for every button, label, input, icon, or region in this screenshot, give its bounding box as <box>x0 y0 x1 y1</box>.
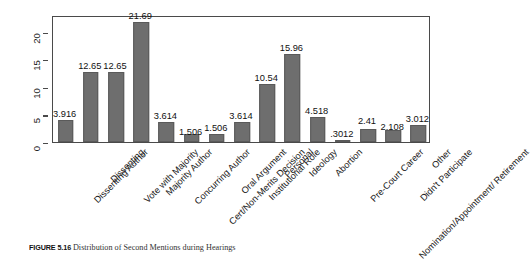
bar[interactable] <box>360 129 376 142</box>
bar-slot <box>78 15 103 142</box>
bar-value-label: 3.916 <box>53 109 76 119</box>
y-tick-mark <box>43 143 48 144</box>
bar-value-label: 2.41 <box>358 116 376 126</box>
y-tick: 15 <box>0 60 48 61</box>
bar-value-label: 1.506 <box>204 123 227 133</box>
y-tick-mark <box>43 115 48 116</box>
bar-value-label: 3.614 <box>229 111 252 121</box>
bar-value-label: 2.108 <box>381 122 404 132</box>
bar-value-label: .3012 <box>330 129 353 139</box>
y-tick-label: 10 <box>31 83 42 103</box>
bar[interactable] <box>234 122 250 142</box>
bar-value-label: 4.518 <box>305 106 328 116</box>
bar-value-label: 12.65 <box>78 61 101 71</box>
bar-slot <box>305 15 330 142</box>
bar[interactable] <box>209 134 225 142</box>
y-tick: 0 <box>0 143 48 144</box>
caption-number: FIGURE 5.16 <box>29 243 71 252</box>
y-tick-label: 0 <box>31 139 42 159</box>
bar-value-label: 3.614 <box>154 111 177 121</box>
bar-value-label: 1.506 <box>179 127 202 137</box>
bar-value-label: 10.54 <box>255 73 278 83</box>
bar-value-label: 12.65 <box>103 61 126 71</box>
bar-value-label: 15.96 <box>280 43 303 53</box>
bar-slot <box>280 15 305 142</box>
y-tick-label: 5 <box>31 111 42 131</box>
y-tick-mark <box>43 60 48 61</box>
bar[interactable] <box>259 84 275 142</box>
bar-slot <box>179 15 204 142</box>
y-tick-label: 20 <box>31 28 42 48</box>
y-tick: 10 <box>0 88 48 89</box>
y-tick-mark <box>43 33 48 34</box>
bar-slot <box>129 15 154 142</box>
bar-slot <box>53 15 78 142</box>
caption-text: Distribution of Second Mentions during H… <box>73 243 236 252</box>
y-tick: 20 <box>0 33 48 34</box>
bar[interactable] <box>159 122 175 142</box>
bar-slot <box>330 15 355 142</box>
bar-value-label: 3.012 <box>406 114 429 124</box>
y-tick-mark <box>43 88 48 89</box>
bar-slot <box>103 15 128 142</box>
bar[interactable] <box>310 117 326 142</box>
bar[interactable] <box>83 72 99 142</box>
bar[interactable] <box>411 125 427 142</box>
bar[interactable] <box>108 72 124 142</box>
bar-value-label: 21.69 <box>129 11 152 21</box>
y-tick-label: 15 <box>31 56 42 76</box>
bar[interactable] <box>285 54 301 142</box>
x-axis-label: Pre-Court Career <box>368 147 425 204</box>
x-axis-label: Dissenting <box>108 147 145 184</box>
bar[interactable] <box>58 120 74 142</box>
figure-caption: FIGURE 5.16 Distribution of Second Menti… <box>29 243 449 257</box>
bar[interactable] <box>335 140 351 142</box>
bar-slot <box>229 15 254 142</box>
bar-slot <box>154 15 179 142</box>
bar[interactable] <box>133 22 149 142</box>
y-tick: 5 <box>0 115 48 116</box>
